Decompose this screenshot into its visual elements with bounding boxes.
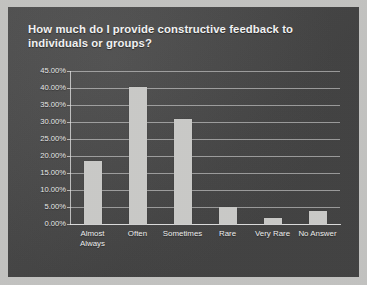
bar-chart: 45.00%40.00%35.00%30.00%25.00%20.00%15.0… (8, 7, 359, 277)
y-tick-label: 0.00% (12, 220, 66, 228)
x-tick-label: Almost Always (70, 229, 115, 248)
bar[interactable] (174, 119, 192, 224)
x-tick-label: Sometimes (160, 229, 205, 239)
gridline (70, 173, 340, 174)
bar[interactable] (219, 207, 237, 224)
y-tick-label: 25.00% (12, 135, 66, 143)
y-tick-label: 5.00% (12, 203, 66, 211)
bar[interactable] (129, 87, 147, 224)
y-tick-label: 35.00% (12, 101, 66, 109)
gridline (70, 224, 340, 225)
slide-frame: How much do I provide constructive feedb… (0, 0, 367, 285)
y-axis-labels: 45.00%40.00%35.00%30.00%25.00%20.00%15.0… (8, 7, 66, 277)
y-tick-label: 45.00% (12, 67, 66, 75)
presentation-slide: How much do I provide constructive feedb… (8, 7, 359, 277)
bar[interactable] (264, 218, 282, 224)
gridline (70, 105, 340, 106)
x-tick-label: Often (115, 229, 160, 239)
y-tick-label: 30.00% (12, 118, 66, 126)
plot-area (70, 71, 340, 224)
x-tick-label: Rare (205, 229, 250, 239)
gridline (70, 190, 340, 191)
gridline (70, 156, 340, 157)
bar[interactable] (84, 161, 102, 224)
y-tick-label: 20.00% (12, 152, 66, 160)
bar[interactable] (309, 211, 327, 224)
y-tick-label: 40.00% (12, 84, 66, 92)
x-tick-label: No Answer (295, 229, 340, 239)
y-tick-label: 15.00% (12, 169, 66, 177)
gridline (70, 122, 340, 123)
x-tick-label: Very Rare (250, 229, 295, 239)
gridline (70, 207, 340, 208)
y-tick-label: 10.00% (12, 186, 66, 194)
gridline (70, 88, 340, 89)
gridline (70, 71, 340, 72)
gridline (70, 139, 340, 140)
